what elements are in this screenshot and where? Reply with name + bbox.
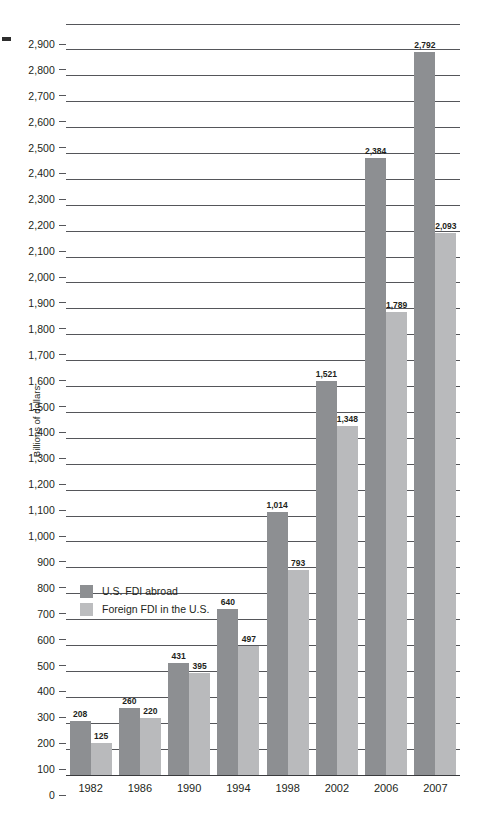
bar xyxy=(168,663,189,775)
bar-value-label: 2,384 xyxy=(356,146,395,156)
x-axis-tick-label: 1990 xyxy=(165,782,214,794)
legend-swatch-icon xyxy=(80,603,93,616)
x-axis: 19821986199019941998200220062007 xyxy=(66,776,460,806)
y-axis-tick-mark xyxy=(59,458,66,459)
y-axis-tick-mark xyxy=(59,121,66,122)
y-axis-tick-label: 2,300 xyxy=(28,193,55,205)
y-axis-tick-mark xyxy=(59,277,66,278)
y-axis-tick-label: 2,800 xyxy=(28,64,55,76)
gridline xyxy=(66,231,460,232)
y-axis-tick-mark xyxy=(59,354,66,355)
y-axis-tick-mark xyxy=(59,613,66,614)
bar xyxy=(189,673,210,775)
y-axis-tick-label: 2,900 xyxy=(28,38,55,50)
y-axis-tick-mark xyxy=(59,95,66,96)
bar-value-label: 1,789 xyxy=(377,300,416,310)
x-axis-tick-label: 1994 xyxy=(214,782,263,794)
bar xyxy=(238,646,259,775)
gridline xyxy=(66,24,460,25)
bar xyxy=(119,708,140,775)
x-axis-tick-label: 1998 xyxy=(263,782,312,794)
x-axis-tick-label: 2002 xyxy=(312,782,361,794)
plot-area: 2081252602204313956404971,0147931,5211,3… xyxy=(66,20,460,775)
bar-value-label: 125 xyxy=(82,731,121,741)
bar xyxy=(316,381,337,775)
x-axis-tick-label: 1982 xyxy=(66,782,115,794)
y-axis-tick-label: 1,700 xyxy=(28,349,55,361)
y-axis-tick-label: 1,400 xyxy=(28,426,55,438)
bar xyxy=(267,512,288,775)
bar xyxy=(435,233,456,775)
bar-value-label: 793 xyxy=(279,558,318,568)
bar-value-label: 2,792 xyxy=(405,40,444,50)
legend-item-foreign-fdi-in-us[interactable]: Foreign FDI in the U.S. xyxy=(80,601,209,617)
y-axis-tick-label: 1,200 xyxy=(28,478,55,490)
y-axis-tick-mark xyxy=(59,769,66,770)
bar xyxy=(140,718,161,775)
y-axis-tick-label: 800 xyxy=(37,582,55,594)
y-axis-tick-label: 200 xyxy=(37,737,55,749)
legend-item-label: Foreign FDI in the U.S. xyxy=(102,603,209,615)
gridline xyxy=(66,101,460,102)
y-axis-tick-mark xyxy=(59,691,66,692)
y-axis-tick-mark xyxy=(59,432,66,433)
y-axis-tick-label: 1,800 xyxy=(28,323,55,335)
bar xyxy=(91,743,112,775)
y-axis-tick-mark xyxy=(59,44,66,45)
y-axis-tick-label: 400 xyxy=(37,685,55,697)
bar-value-label: 640 xyxy=(208,597,247,607)
y-axis-tick-mark xyxy=(59,69,66,70)
y-axis-tick-label: 2,000 xyxy=(28,271,55,283)
y-axis-tick-label: 300 xyxy=(37,711,55,723)
y-axis-tick-label: 100 xyxy=(37,763,55,775)
y-axis-tick-label: 1,900 xyxy=(28,297,55,309)
y-axis-tick-mark xyxy=(59,484,66,485)
bar-chart: Billions of dollars 2,9002,8002,7002,600… xyxy=(0,0,477,816)
y-axis-tick-mark xyxy=(59,147,66,148)
y-axis-tick-mark xyxy=(59,536,66,537)
y-axis-tick-mark xyxy=(59,251,66,252)
bar xyxy=(337,426,358,775)
legend-item-label: U.S. FDI abroad xyxy=(102,585,178,597)
bar xyxy=(365,158,386,775)
y-axis-tick-label: 1,600 xyxy=(28,375,55,387)
y-axis-tick-mark xyxy=(59,561,66,562)
bar-value-label: 1,014 xyxy=(258,500,297,510)
y-axis-tick-label: 2,100 xyxy=(28,245,55,257)
y-axis-tick-label: 2,500 xyxy=(28,142,55,154)
y-axis-tick-mark xyxy=(59,743,66,744)
gridline xyxy=(66,257,460,258)
y-axis-tick-label: 600 xyxy=(37,634,55,646)
y-axis-tick-mark xyxy=(59,406,66,407)
y-axis-tick-label: 0 xyxy=(49,789,55,801)
legend-item-us-fdi-abroad[interactable]: U.S. FDI abroad xyxy=(80,583,209,599)
y-axis: Billions of dollars 2,9002,8002,7002,600… xyxy=(0,20,66,775)
legend: U.S. FDI abroad Foreign FDI in the U.S. xyxy=(80,583,209,619)
y-axis-tick-mark xyxy=(59,639,66,640)
bar-value-label: 208 xyxy=(61,709,100,719)
y-axis-tick-label: 1,500 xyxy=(28,401,55,413)
gridline xyxy=(66,75,460,76)
bar xyxy=(288,570,309,775)
y-axis-tick-label: 500 xyxy=(37,660,55,672)
x-axis-tick-label: 1986 xyxy=(115,782,164,794)
y-axis-tick-mark xyxy=(59,328,66,329)
y-axis-tick-mark xyxy=(59,199,66,200)
y-axis-tick-mark xyxy=(59,665,66,666)
bar xyxy=(414,52,435,775)
y-axis-tick-mark xyxy=(59,302,66,303)
bar-value-label: 1,521 xyxy=(307,369,346,379)
y-axis-tick-label: 2,200 xyxy=(28,219,55,231)
bar-value-label: 2,093 xyxy=(426,221,465,231)
bar-value-label: 497 xyxy=(229,634,268,644)
bar-value-label: 220 xyxy=(131,706,170,716)
y-axis-tick-label: 1,100 xyxy=(28,504,55,516)
x-axis-tick-label: 2006 xyxy=(362,782,411,794)
y-axis-tick-label: 700 xyxy=(37,608,55,620)
legend-swatch-icon xyxy=(80,585,93,598)
y-axis-tick-label: 2,600 xyxy=(28,116,55,128)
y-axis-tick-label: 2,400 xyxy=(28,167,55,179)
y-axis-tick-mark xyxy=(59,380,66,381)
bar-value-label: 395 xyxy=(180,661,219,671)
gridline xyxy=(66,205,460,206)
